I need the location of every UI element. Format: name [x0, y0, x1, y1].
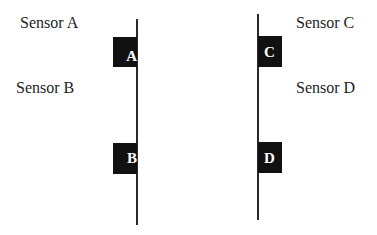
marker-a: A [113, 37, 137, 67]
marker-b: B [113, 143, 137, 174]
marker-d: D [258, 142, 282, 173]
sensor-d-label: Sensor D [296, 79, 355, 97]
marker-a-letter: A [126, 48, 137, 65]
sensor-c-label: Sensor C [296, 14, 354, 32]
marker-d-letter: D [264, 150, 275, 167]
sensor-b-label: Sensor B [16, 79, 74, 97]
sensor-a-label: Sensor A [20, 14, 78, 32]
marker-c-letter: C [264, 44, 275, 61]
marker-b-letter: B [127, 150, 137, 167]
marker-c: C [258, 36, 282, 67]
